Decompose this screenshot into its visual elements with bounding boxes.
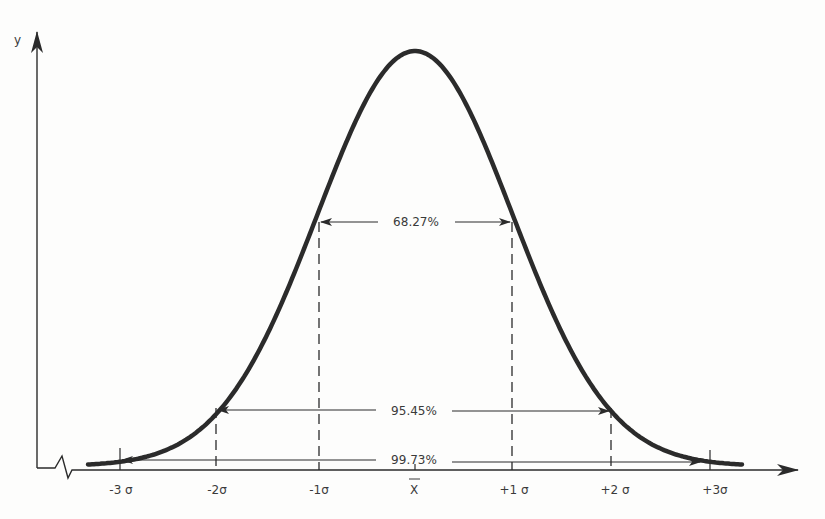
tick-minus-2-sigma: -2σ: [207, 483, 227, 497]
normal-distribution-chart: y 68.27% 95.45% 99.73% -3 σ -2σ -1σ X +: [0, 0, 825, 519]
tick-mean: X: [410, 483, 418, 497]
tick-plus-1-sigma: +1 σ: [499, 483, 529, 497]
pct-68-label: 68.27%: [393, 215, 439, 229]
y-axis-label: y: [14, 33, 21, 47]
pct-95-label: 95.45%: [391, 404, 437, 418]
x-tick-labels: -3 σ -2σ -1σ X +1 σ +2 σ +3σ: [109, 483, 728, 497]
tick-minus-3-sigma: -3 σ: [109, 483, 133, 497]
pct-99-label: 99.73%: [391, 453, 437, 467]
tick-minus-1-sigma: -1σ: [309, 483, 329, 497]
normal-curve: [88, 51, 742, 465]
tick-plus-3-sigma: +3σ: [702, 483, 728, 497]
tick-plus-2-sigma: +2 σ: [600, 483, 630, 497]
sigma-dashed-lines: [216, 222, 611, 470]
